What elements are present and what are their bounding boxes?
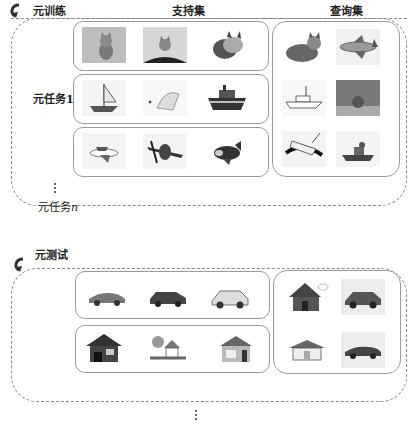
support-set-header: 支持集 [172, 2, 205, 18]
boat-icon [336, 131, 380, 167]
boat-icon [282, 80, 326, 116]
ellipsis-icon [195, 410, 198, 422]
boat-icon [143, 80, 187, 116]
cat-icon [82, 27, 126, 63]
car-icon [341, 279, 385, 315]
cat-icon [336, 80, 380, 116]
meta-task-n-label: 元任务n [38, 198, 78, 214]
ellipsis-icon [54, 183, 57, 195]
house-icon [146, 330, 190, 366]
meta-task-n-index: n [71, 201, 78, 214]
airplane-icon [282, 131, 326, 167]
cat-icon [143, 27, 187, 63]
airplane-icon [143, 133, 187, 169]
boat-icon [82, 80, 126, 116]
meta-train-title: 元训练 [33, 2, 66, 18]
car-icon [208, 279, 252, 315]
cat-icon [282, 29, 326, 65]
house-icon [285, 332, 329, 368]
meta-task-1-label: 元任务1 [33, 90, 74, 106]
house-icon [82, 330, 126, 366]
car-icon [341, 332, 385, 368]
meta-test-title: 元测试 [35, 246, 68, 262]
airplane-icon [336, 29, 380, 65]
airplane-icon [205, 133, 249, 169]
airplane-icon [82, 133, 126, 169]
house-icon [285, 279, 329, 315]
boat-icon [205, 80, 249, 116]
cat-icon [205, 27, 249, 63]
house-icon [214, 330, 258, 366]
query-set-header: 查询集 [330, 2, 363, 18]
meta-task-n-text: 元任务 [38, 201, 71, 214]
car-icon [85, 279, 129, 315]
car-icon [146, 279, 190, 315]
